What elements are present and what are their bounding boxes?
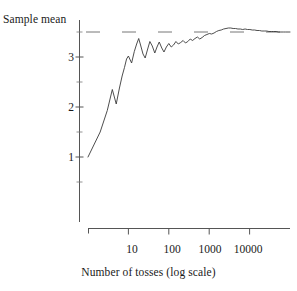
chart-figure: Sample mean 3 2 1 10 100 1000 10000 Numb… bbox=[0, 0, 297, 291]
plot-canvas bbox=[0, 0, 297, 291]
x-tick-marks bbox=[89, 229, 250, 235]
axis-lines bbox=[80, 20, 291, 229]
sample-mean-line bbox=[88, 28, 290, 157]
